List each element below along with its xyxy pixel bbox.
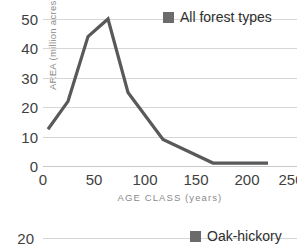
y-tick-label: 30 <box>4 71 38 86</box>
chart-all-forest-types: AREA (million acres) 50 40 30 20 10 0 0 … <box>0 0 297 212</box>
y-tick-label: 50 <box>4 12 38 27</box>
x-tick-label: 50 <box>74 172 114 187</box>
x-axis-title: AGE CLASS (years) <box>43 192 297 203</box>
x-tick-label: 150 <box>176 172 216 187</box>
y-tick-label: 20 <box>0 231 34 246</box>
legend-all-forest-types: All forest types <box>163 10 272 24</box>
y-tick-label: 40 <box>4 41 38 56</box>
legend-label: Oak-hickory <box>207 229 282 243</box>
legend-label: All forest types <box>180 10 272 24</box>
legend-oak-hickory: Oak-hickory <box>190 229 282 243</box>
x-tick-label: 100 <box>125 172 165 187</box>
x-tick-label: 0 <box>23 172 63 187</box>
series-line-all-forest-types <box>43 19 297 166</box>
plot-area <box>43 19 297 166</box>
y-tick-label: 10 <box>4 130 38 145</box>
x-tick-label: 200 <box>227 172 267 187</box>
legend-swatch-icon <box>163 12 174 23</box>
y-tick-label: 20 <box>4 100 38 115</box>
x-tick-label: 250 <box>271 172 297 187</box>
legend-swatch-icon <box>190 231 201 242</box>
forest-area-by-age-class-figure: AREA (million acres) 50 40 30 20 10 0 0 … <box>0 0 297 250</box>
axis-baseline <box>43 166 297 167</box>
